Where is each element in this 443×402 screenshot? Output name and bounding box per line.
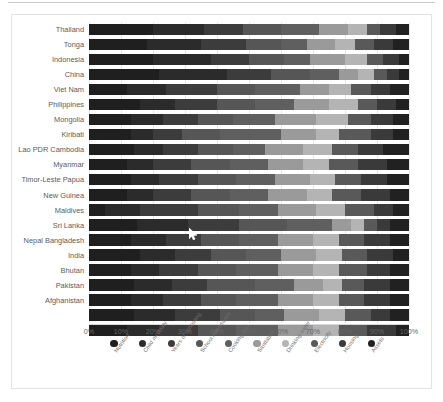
- bar-segment[interactable]: [377, 99, 396, 110]
- bar-row[interactable]: [89, 82, 409, 97]
- bar-segment[interactable]: [278, 294, 313, 305]
- bar-segment[interactable]: [390, 294, 409, 305]
- bar-segment[interactable]: [220, 129, 281, 140]
- bar-segment[interactable]: [201, 234, 239, 245]
- bar-row[interactable]: [89, 233, 409, 248]
- bar-segment[interactable]: [172, 279, 207, 290]
- bar-row[interactable]: [89, 293, 409, 308]
- bar-segment[interactable]: [371, 129, 393, 140]
- bar-segment[interactable]: [345, 309, 371, 320]
- bar-row[interactable]: [89, 218, 409, 233]
- bar-segment[interactable]: [390, 309, 409, 320]
- bar-segment[interactable]: [300, 84, 329, 95]
- stacked-bar[interactable]: [89, 54, 409, 65]
- bar-segment[interactable]: [284, 54, 310, 65]
- bar-segment[interactable]: [393, 39, 409, 50]
- bar-segment[interactable]: [89, 294, 131, 305]
- bar-segment[interactable]: [89, 264, 131, 275]
- bar-segment[interactable]: [89, 84, 127, 95]
- bar-segment[interactable]: [163, 294, 201, 305]
- bar-segment[interactable]: [166, 84, 217, 95]
- bar-segment[interactable]: [358, 159, 387, 170]
- bar-segment[interactable]: [131, 174, 160, 185]
- bar-segment[interactable]: [127, 189, 153, 200]
- stacked-bar[interactable]: [89, 114, 409, 125]
- bar-segment[interactable]: [89, 39, 147, 50]
- bar-segment[interactable]: [348, 24, 367, 35]
- stacked-bar[interactable]: [89, 234, 409, 245]
- stacked-bar[interactable]: [89, 249, 409, 260]
- stacked-bar[interactable]: [89, 204, 409, 215]
- bar-segment[interactable]: [198, 114, 233, 125]
- bar-segment[interactable]: [204, 24, 242, 35]
- bar-segment[interactable]: [281, 24, 319, 35]
- bar-segment[interactable]: [278, 234, 313, 245]
- bar-segment[interactable]: [307, 39, 336, 50]
- stacked-bar[interactable]: [89, 39, 409, 50]
- bar-segment[interactable]: [281, 39, 307, 50]
- bar-segment[interactable]: [140, 249, 175, 260]
- bar-segment[interactable]: [153, 189, 191, 200]
- bar-segment[interactable]: [390, 219, 409, 230]
- bar-segment[interactable]: [316, 114, 348, 125]
- bar-segment[interactable]: [371, 84, 390, 95]
- bar-segment[interactable]: [153, 129, 182, 140]
- bar-segment[interactable]: [127, 84, 165, 95]
- bar-segment[interactable]: [249, 54, 284, 65]
- bar-segment[interactable]: [393, 114, 409, 125]
- bar-segment[interactable]: [134, 279, 172, 290]
- bar-segment[interactable]: [153, 24, 204, 35]
- bar-segment[interactable]: [329, 84, 351, 95]
- bar-segment[interactable]: [351, 84, 370, 95]
- bar-segment[interactable]: [390, 189, 409, 200]
- bar-segment[interactable]: [163, 114, 198, 125]
- bar-segment[interactable]: [89, 234, 131, 245]
- bar-segment[interactable]: [342, 279, 364, 290]
- stacked-bar[interactable]: [89, 129, 409, 140]
- bar-segment[interactable]: [364, 294, 390, 305]
- bar-segment[interactable]: [371, 114, 393, 125]
- bar-segment[interactable]: [361, 189, 390, 200]
- bar-segment[interactable]: [339, 264, 368, 275]
- bar-segment[interactable]: [329, 159, 358, 170]
- stacked-bar[interactable]: [89, 309, 409, 320]
- bar-segment[interactable]: [198, 204, 240, 215]
- bar-segment[interactable]: [303, 144, 332, 155]
- bar-segment[interactable]: [89, 54, 153, 65]
- bar-segment[interactable]: [319, 309, 345, 320]
- stacked-bar[interactable]: [89, 294, 409, 305]
- bar-segment[interactable]: [236, 174, 274, 185]
- bar-segment[interactable]: [399, 69, 409, 80]
- bar-row[interactable]: [89, 97, 409, 112]
- bar-segment[interactable]: [367, 54, 383, 65]
- bar-row[interactable]: [89, 157, 409, 172]
- bar-segment[interactable]: [140, 204, 198, 215]
- bar-segment[interactable]: [393, 204, 409, 215]
- bar-segment[interactable]: [89, 24, 153, 35]
- bar-segment[interactable]: [188, 219, 239, 230]
- bar-segment[interactable]: [134, 309, 176, 320]
- bar-segment[interactable]: [287, 219, 332, 230]
- bar-segment[interactable]: [374, 39, 393, 50]
- bar-segment[interactable]: [159, 69, 226, 80]
- bar-row[interactable]: [89, 127, 409, 142]
- bar-segment[interactable]: [89, 279, 134, 290]
- bar-segment[interactable]: [89, 219, 137, 230]
- bar-segment[interactable]: [281, 129, 316, 140]
- bar-segment[interactable]: [127, 159, 153, 170]
- bar-segment[interactable]: [393, 129, 409, 140]
- bar-segment[interactable]: [332, 189, 361, 200]
- bar-segment[interactable]: [159, 264, 197, 275]
- bar-segment[interactable]: [390, 264, 409, 275]
- bar-segment[interactable]: [383, 144, 409, 155]
- bar-segment[interactable]: [246, 39, 281, 50]
- bar-segment[interactable]: [89, 99, 140, 110]
- bar-segment[interactable]: [358, 69, 374, 80]
- bar-segment[interactable]: [345, 204, 374, 215]
- bar-segment[interactable]: [89, 204, 105, 215]
- bar-segment[interactable]: [89, 144, 134, 155]
- bar-segment[interactable]: [316, 129, 338, 140]
- bar-segment[interactable]: [399, 54, 409, 65]
- bar-segment[interactable]: [89, 114, 131, 125]
- bar-segment[interactable]: [345, 54, 367, 65]
